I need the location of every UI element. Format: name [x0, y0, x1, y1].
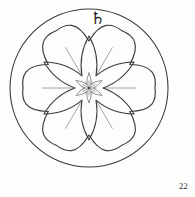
star-spoke — [97, 48, 113, 75]
plate-figure — [0, 0, 195, 197]
plate-number: 22 — [179, 181, 188, 191]
star-spoke — [97, 101, 113, 128]
center-dot — [88, 87, 90, 89]
figure-svg — [0, 0, 195, 197]
star-spoke — [66, 101, 82, 128]
saturn-glyph: ♄ — [0, 10, 195, 27]
star-spoke — [66, 48, 82, 75]
center-burst-group — [82, 81, 96, 95]
